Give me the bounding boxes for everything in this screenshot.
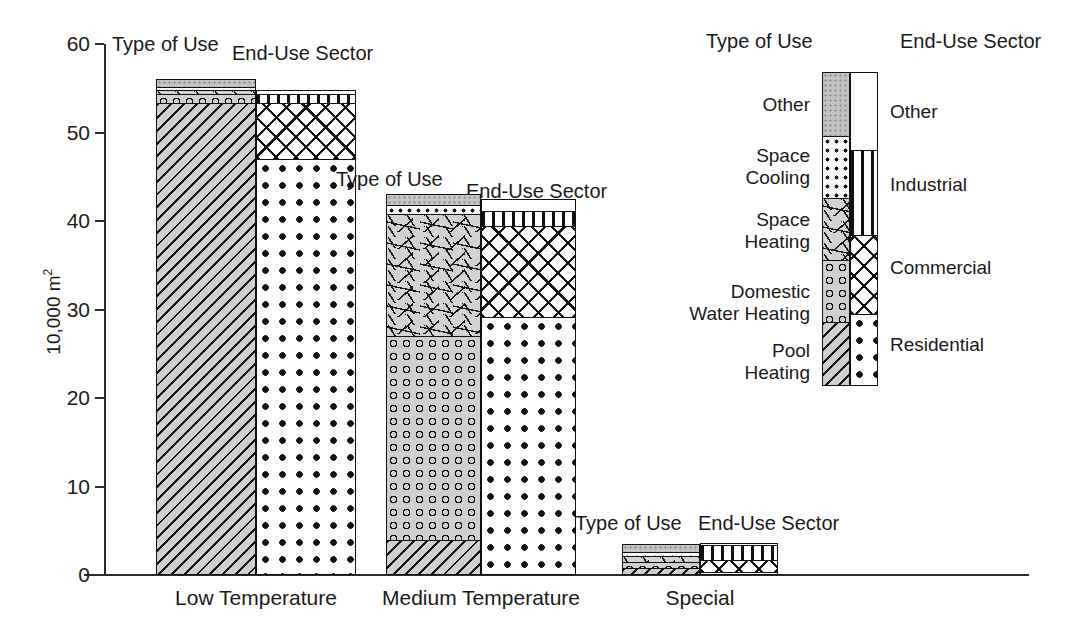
caption-low-end-use-sector: End-Use Sector: [232, 42, 373, 65]
segment-commercial: [482, 227, 575, 318]
y-tick-label-20: 20: [52, 387, 90, 408]
segment-domestic-water-heating: [387, 337, 480, 541]
y-tick-label-40: 40: [52, 210, 90, 231]
legend-bar: [822, 72, 878, 386]
legend-swatch-space-heating: [823, 199, 849, 261]
segment-pool-heating: [623, 569, 699, 574]
y-tick-60: [95, 43, 104, 45]
caption-special-type-of-use: Type of Use: [575, 512, 682, 535]
caption-medium-type-of-use: Type of Use: [336, 168, 443, 191]
segment-pool-heating: [157, 104, 255, 574]
legend-swatch-industrial: [851, 151, 877, 236]
legend-column-end-use-sector: [850, 72, 878, 386]
segment-other: [482, 200, 575, 212]
y-axis-title-superscript: 2: [41, 269, 55, 276]
legend-swatch-space-cooling: [823, 137, 849, 199]
legend-swatch-domestic-water-heating: [823, 261, 849, 323]
legend-header-end-use-sector: End-Use Sector: [900, 30, 1041, 53]
segment-residential: [701, 573, 777, 574]
legend-swatch-residential: [851, 315, 877, 385]
legend-label-space-heating: Space Heating: [650, 209, 810, 253]
y-tick-50: [95, 132, 104, 134]
y-tick-40: [95, 220, 104, 222]
y-tick-10: [95, 486, 104, 488]
legend-swatch-commercial: [851, 236, 877, 315]
legend-swatch-other: [851, 73, 877, 151]
segment-commercial: [257, 104, 355, 160]
bar-low-temperature-type-of-use: [156, 79, 256, 575]
segment-residential: [482, 318, 575, 574]
y-tick-20: [95, 397, 104, 399]
segment-commercial: [701, 561, 777, 573]
legend-header-type-of-use: Type of Use: [706, 30, 813, 53]
segment-domestic-water-heating: [157, 95, 255, 104]
bar-special-type-of-use: [622, 544, 700, 575]
segment-other: [623, 545, 699, 553]
y-tick-label-30: 30: [52, 299, 90, 320]
legend-label-space-cooling: Space Cooling: [650, 145, 810, 189]
y-tick-label-10: 10: [52, 476, 90, 497]
segment-other: [387, 195, 480, 206]
segment-pool-heating: [387, 541, 480, 574]
legend-label-commercial: Commercial: [890, 257, 1070, 279]
legend-column-type-of-use: [822, 72, 850, 386]
legend-swatch-pool-heating: [823, 323, 849, 385]
legend-label-industrial: Industrial: [890, 174, 1070, 196]
chart-canvas: 10,000 m2 60 50 40 30 20 10 0 Type of Us…: [0, 0, 1070, 632]
segment-residential: [257, 160, 355, 574]
bar-special-end-use-sector: [700, 543, 778, 575]
y-tick-label-60: 60: [52, 33, 90, 54]
y-axis-line: [104, 44, 106, 576]
segment-industrial: [257, 95, 355, 104]
segment-other: [157, 80, 255, 88]
y-tick-label-50: 50: [52, 122, 90, 143]
legend-label-domestic-water-heating: Domestic Water Heating: [630, 281, 810, 325]
segment-industrial: [482, 212, 575, 227]
bar-medium-temperature-end-use-sector: [481, 199, 576, 575]
legend-label-other: Other: [890, 101, 1070, 123]
caption-special-end-use-sector: End-Use Sector: [698, 512, 839, 535]
x-category-label-low-temperature: Low Temperature: [146, 586, 366, 610]
legend-label-other: Other: [650, 94, 810, 116]
x-category-label-medium-temperature: Medium Temperature: [371, 586, 591, 610]
bar-low-temperature-end-use-sector: [256, 90, 356, 575]
legend-swatch-other: [823, 73, 849, 137]
segment-space-cooling: [387, 206, 480, 215]
legend-label-pool-heating: Pool Heating: [650, 340, 810, 384]
legend-label-residential: Residential: [890, 334, 1070, 356]
segment-space-heating: [387, 215, 480, 337]
caption-low-type-of-use: Type of Use: [112, 33, 219, 56]
segment-industrial: [701, 546, 777, 561]
bar-medium-temperature-type-of-use: [386, 194, 481, 575]
y-tick-30: [95, 309, 104, 311]
y-tick-label-0: 0: [52, 564, 90, 585]
x-category-label-special: Special: [600, 586, 800, 610]
